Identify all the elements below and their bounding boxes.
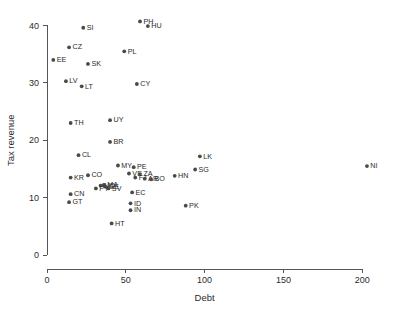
point-marker <box>149 177 153 181</box>
data-point: TH <box>69 118 84 127</box>
y-axis: 010203040 <box>29 21 47 261</box>
plot-canvas: 010203040 050100150200 Debt Tax revenue … <box>0 0 393 316</box>
data-point: CL <box>77 150 92 159</box>
point-label: HU <box>151 21 161 30</box>
point-label: EC <box>136 188 146 197</box>
data-point: PK <box>184 201 199 210</box>
point-label: PL <box>128 47 137 56</box>
data-point: UY <box>108 115 123 124</box>
point-label: CY <box>140 79 150 88</box>
point-marker <box>67 200 71 204</box>
x-axis-title: Debt <box>195 292 215 303</box>
point-marker <box>127 172 131 176</box>
point-label: MY <box>121 161 132 170</box>
data-point: CZ <box>67 42 82 51</box>
data-point-group: PHHUSICZPLEESKLVCYLTUYTHBRLKCLMYNIPESGVE… <box>51 17 377 228</box>
point-marker <box>198 154 202 158</box>
point-label: UY <box>113 115 123 124</box>
point-label: CL <box>82 150 91 159</box>
data-point: PY <box>94 184 109 193</box>
data-point: HT <box>110 219 125 228</box>
point-label: PK <box>189 201 199 210</box>
data-point: IN <box>129 205 141 214</box>
point-marker <box>108 118 112 122</box>
x-tick-group: 050100150200 <box>44 269 369 285</box>
point-marker <box>116 164 120 168</box>
data-point: SG <box>193 165 209 174</box>
point-label: SI <box>87 23 94 32</box>
y-tick-label: 30 <box>29 78 39 88</box>
scatter-chart: 010203040 050100150200 Debt Tax revenue … <box>0 0 393 316</box>
y-tick-label: 10 <box>29 193 39 203</box>
data-point: LV <box>64 76 78 85</box>
x-tick-label: 100 <box>197 275 212 285</box>
data-point: HN <box>173 171 189 180</box>
point-label: IN <box>134 205 141 214</box>
data-point: NI <box>365 161 377 170</box>
data-point: LK <box>198 152 212 161</box>
point-marker <box>122 49 126 53</box>
data-point: LT <box>80 82 94 91</box>
point-marker <box>69 121 73 125</box>
data-point: EC <box>130 188 145 197</box>
data-point: EE <box>51 55 66 64</box>
point-marker <box>110 222 114 226</box>
point-marker <box>129 201 133 205</box>
point-label: SK <box>91 59 101 68</box>
point-label: BO <box>154 174 165 183</box>
point-marker <box>69 192 73 196</box>
point-marker <box>184 204 188 208</box>
point-marker <box>138 20 142 24</box>
point-label: LT <box>85 82 93 91</box>
point-marker <box>51 58 55 62</box>
point-marker <box>69 176 73 180</box>
point-label: NI <box>370 161 377 170</box>
point-marker <box>108 140 112 144</box>
point-marker <box>77 153 81 157</box>
data-point: PL <box>122 47 136 56</box>
point-label: LV <box>69 76 77 85</box>
data-point: CO <box>86 170 102 179</box>
data-point: GT <box>67 197 83 206</box>
point-label: CO <box>91 170 102 179</box>
data-point: SK <box>86 59 101 68</box>
point-label: GT <box>72 197 83 206</box>
point-label: HT <box>115 219 125 228</box>
point-label: HN <box>178 171 188 180</box>
y-tick-label: 20 <box>29 135 39 145</box>
point-label: TH <box>74 118 84 127</box>
x-tick-label: 50 <box>121 275 131 285</box>
point-marker <box>129 208 133 212</box>
point-label: EE <box>57 55 67 64</box>
point-label: CZ <box>72 42 82 51</box>
data-point: CY <box>135 79 150 88</box>
data-point: BR <box>108 137 123 146</box>
point-marker <box>173 174 177 178</box>
point-marker <box>135 82 139 86</box>
point-label: BR <box>113 137 123 146</box>
point-marker <box>133 176 137 180</box>
point-marker <box>146 24 150 28</box>
x-tick-label: 0 <box>44 275 49 285</box>
point-label: LK <box>203 152 212 161</box>
x-axis: 050100150200 <box>44 269 369 285</box>
point-marker <box>365 164 369 168</box>
y-tick-label: 40 <box>29 21 39 31</box>
point-marker <box>64 79 68 83</box>
point-label: SG <box>199 165 210 174</box>
y-axis-title: Tax revenue <box>5 114 16 166</box>
point-marker <box>86 173 90 177</box>
point-marker <box>143 177 147 181</box>
x-tick-label: 150 <box>276 275 291 285</box>
point-marker <box>67 45 71 49</box>
point-marker <box>130 191 134 195</box>
point-label: PY <box>99 184 109 193</box>
y-tick-label: 0 <box>34 250 39 260</box>
point-marker <box>94 187 98 191</box>
point-label: SV <box>112 184 122 193</box>
data-point: MY <box>116 161 132 170</box>
point-marker <box>193 168 197 172</box>
data-point: KR <box>69 173 84 182</box>
y-tick-group: 010203040 <box>29 21 47 261</box>
point-marker <box>86 62 90 66</box>
